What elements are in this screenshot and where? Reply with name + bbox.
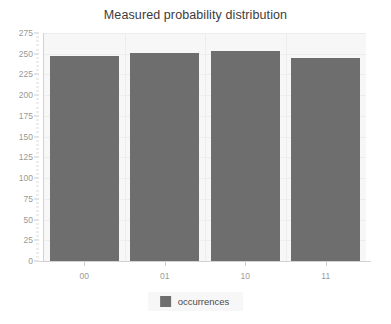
x-tick-label-10: 10 (241, 271, 250, 281)
bar-10[interactable] (211, 51, 280, 261)
y-tick-mark (34, 240, 39, 241)
x-tick-mark (245, 262, 246, 266)
plot-area (44, 33, 366, 261)
y-tick-label: 125 (19, 152, 33, 162)
chart-title: Measured probability distribution (0, 8, 391, 22)
y-minor-tick-mark (36, 186, 39, 187)
y-tick-mark (34, 198, 39, 199)
y-minor-tick-mark (36, 211, 39, 212)
y-tick-label: 150 (19, 132, 33, 142)
chart-legend: occurrences (148, 292, 244, 311)
y-tick-label: 100 (19, 173, 33, 183)
y-minor-tick-mark (36, 149, 39, 150)
y-minor-tick-mark (36, 153, 39, 154)
x-tick-mark (326, 262, 327, 266)
y-minor-tick-mark (36, 111, 39, 112)
legend-swatch-occurrences (160, 296, 171, 307)
y-minor-tick-mark (36, 62, 39, 63)
y-tick-label: 0 (28, 256, 33, 266)
y-tick-mark (34, 33, 39, 34)
y-tick-mark (34, 74, 39, 75)
bars-layer (44, 33, 366, 261)
x-tick-mark (165, 262, 166, 266)
y-tick-mark (34, 219, 39, 220)
y-minor-tick-mark (36, 140, 39, 141)
y-minor-tick-mark (36, 37, 39, 38)
y-minor-tick-mark (36, 248, 39, 249)
y-minor-tick-mark (36, 128, 39, 129)
y-minor-tick-mark (36, 45, 39, 46)
y-minor-tick-mark (36, 70, 39, 71)
y-minor-tick-mark (36, 252, 39, 253)
y-minor-tick-mark (36, 161, 39, 162)
y-tick-label: 25 (24, 235, 33, 245)
x-tick-label-11: 11 (321, 271, 330, 281)
y-minor-tick-mark (36, 194, 39, 195)
y-minor-tick-mark (36, 165, 39, 166)
y-minor-tick-mark (36, 144, 39, 145)
y-minor-tick-mark (36, 182, 39, 183)
y-minor-tick-mark (36, 124, 39, 125)
y-minor-tick-mark (36, 169, 39, 170)
y-minor-tick-mark (36, 41, 39, 42)
y-minor-tick-mark (36, 223, 39, 224)
y-minor-tick-mark (36, 244, 39, 245)
y-tick-label: 275 (19, 28, 33, 38)
x-tick-mark (84, 262, 85, 266)
y-tick-mark (34, 115, 39, 116)
y-tick-label: 75 (24, 194, 33, 204)
bar-00[interactable] (50, 56, 119, 261)
y-minor-tick-mark (36, 82, 39, 83)
y-minor-tick-mark (36, 173, 39, 174)
y-minor-tick-mark (36, 103, 39, 104)
y-minor-tick-mark (36, 99, 39, 100)
y-tick-label: 200 (19, 90, 33, 100)
y-minor-tick-mark (36, 236, 39, 237)
y-minor-tick-mark (36, 215, 39, 216)
y-minor-tick-mark (36, 227, 39, 228)
y-minor-tick-mark (36, 86, 39, 87)
y-minor-tick-mark (36, 231, 39, 232)
y-tick-mark (34, 95, 39, 96)
y-minor-tick-mark (36, 78, 39, 79)
y-minor-tick-mark (36, 120, 39, 121)
y-tick-mark (34, 136, 39, 137)
y-tick-label: 50 (24, 215, 33, 225)
bar-01[interactable] (130, 53, 199, 261)
y-tick-label: 225 (19, 69, 33, 79)
x-tick-label-00: 00 (80, 271, 89, 281)
y-tick-mark (34, 178, 39, 179)
y-minor-tick-mark (36, 207, 39, 208)
y-tick-label: 250 (19, 49, 33, 59)
bar-chart: Measured probability distribution 025507… (0, 0, 391, 324)
y-minor-tick-mark (36, 107, 39, 108)
y-tick-mark (34, 53, 39, 54)
y-minor-tick-mark (36, 49, 39, 50)
bar-11[interactable] (291, 58, 360, 261)
legend-label-occurrences: occurrences (178, 296, 230, 307)
y-minor-tick-mark (36, 132, 39, 133)
y-minor-tick-mark (36, 57, 39, 58)
y-minor-tick-mark (36, 190, 39, 191)
x-axis: 00011011 (44, 262, 366, 284)
y-minor-tick-mark (36, 256, 39, 257)
y-minor-tick-mark (36, 66, 39, 67)
y-minor-tick-mark (36, 91, 39, 92)
y-tick-label: 175 (19, 111, 33, 121)
y-tick-mark (34, 157, 39, 158)
x-tick-label-01: 01 (160, 271, 169, 281)
y-axis: 0255075100125150175200225250275 (0, 33, 44, 261)
y-minor-tick-mark (36, 202, 39, 203)
